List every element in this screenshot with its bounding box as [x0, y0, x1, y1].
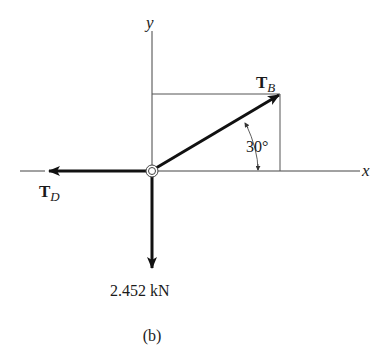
figure-caption: (b): [143, 327, 162, 345]
td-label: TD: [39, 182, 60, 204]
origin-ring-icon: [146, 165, 158, 177]
tb-force-arrow: [156, 95, 279, 168]
tb-label: TB: [256, 73, 275, 95]
free-body-diagram: y x TB 30° TD 2.452 kN (b): [0, 0, 381, 358]
weight-label: 2.452 kN: [110, 282, 170, 299]
y-axis-label: y: [144, 13, 154, 32]
x-axis-label: x: [361, 161, 370, 180]
angle-label: 30°: [246, 138, 268, 155]
